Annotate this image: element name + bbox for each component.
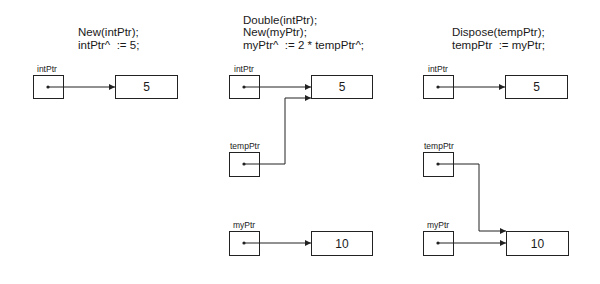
pointer-arrows — [0, 0, 600, 284]
